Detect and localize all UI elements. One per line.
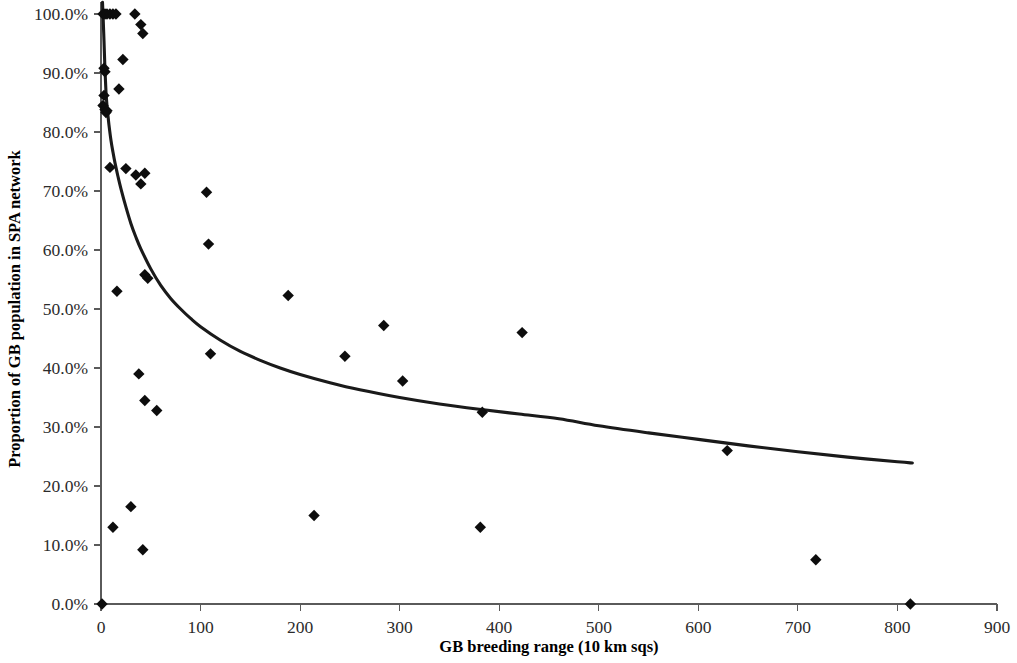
- data-point-marker: [139, 395, 150, 406]
- chart-canvas: 0.0%10.0%20.0%30.0%40.0%50.0%60.0%70.0%8…: [0, 0, 1017, 663]
- data-point-marker: [113, 83, 124, 94]
- x-axis-title: GB breeding range (10 km sqs): [439, 637, 658, 656]
- data-point-marker: [308, 510, 319, 521]
- scatter-chart: 0.0%10.0%20.0%30.0%40.0%50.0%60.0%70.0%8…: [0, 0, 1017, 663]
- data-point-marker: [120, 163, 131, 174]
- y-tick-label: 100.0%: [34, 4, 88, 24]
- y-tick-label: 10.0%: [43, 535, 88, 555]
- y-tick-label: 30.0%: [43, 417, 88, 437]
- x-tick-label: 200: [287, 617, 314, 637]
- data-point-marker: [117, 54, 128, 65]
- data-point-marker: [137, 544, 148, 555]
- x-tick-label: 100: [187, 617, 214, 637]
- data-point-marker: [135, 178, 146, 189]
- y-axis-title: Proportion of GB population in SPA netwo…: [5, 149, 24, 467]
- x-tick-label: 300: [387, 617, 414, 637]
- fitted-trend-curve: [102, 2, 912, 463]
- x-tick-label: 600: [685, 617, 712, 637]
- y-tick-label: 20.0%: [43, 476, 88, 496]
- data-point-marker: [722, 445, 733, 456]
- data-point-marker: [107, 522, 118, 533]
- x-tick-label: 500: [586, 617, 613, 637]
- data-point-marker: [378, 320, 389, 331]
- data-point-marker: [397, 375, 408, 386]
- x-tick-label: 900: [984, 617, 1011, 637]
- data-point-marker: [139, 168, 150, 179]
- data-point-marker: [905, 598, 916, 609]
- data-point-marker: [516, 327, 527, 338]
- data-point-marker: [810, 554, 821, 565]
- y-tick-label: 0.0%: [52, 594, 88, 614]
- y-tick-label: 60.0%: [43, 240, 88, 260]
- y-axis-ticks: 0.0%10.0%20.0%30.0%40.0%50.0%60.0%70.0%8…: [34, 4, 101, 614]
- data-point-marker: [151, 405, 162, 416]
- data-point-marker: [135, 19, 146, 30]
- data-point-marker: [129, 8, 140, 19]
- data-point-marker: [133, 368, 144, 379]
- data-point-marker: [201, 186, 212, 197]
- y-tick-label: 90.0%: [43, 63, 88, 83]
- y-tick-label: 40.0%: [43, 358, 88, 378]
- x-tick-label: 700: [785, 617, 812, 637]
- data-point-marker: [125, 501, 136, 512]
- data-point-marker: [137, 28, 148, 39]
- data-point-marker: [111, 286, 122, 297]
- data-point-marker: [282, 290, 293, 301]
- data-point-marker: [205, 348, 216, 359]
- y-tick-label: 80.0%: [43, 122, 88, 142]
- data-point-marker: [339, 351, 350, 362]
- scatter-markers: [96, 8, 916, 609]
- y-tick-label: 70.0%: [43, 181, 88, 201]
- data-point-marker: [475, 522, 486, 533]
- x-tick-label: 400: [486, 617, 513, 637]
- data-point-marker: [203, 238, 214, 249]
- x-tick-label: 800: [884, 617, 911, 637]
- data-point-marker: [96, 598, 107, 609]
- x-tick-label: 0: [97, 617, 106, 637]
- data-point-marker: [130, 169, 141, 180]
- x-axis-ticks: 0100200300400500600700800900: [97, 604, 1011, 637]
- y-tick-label: 50.0%: [43, 299, 88, 319]
